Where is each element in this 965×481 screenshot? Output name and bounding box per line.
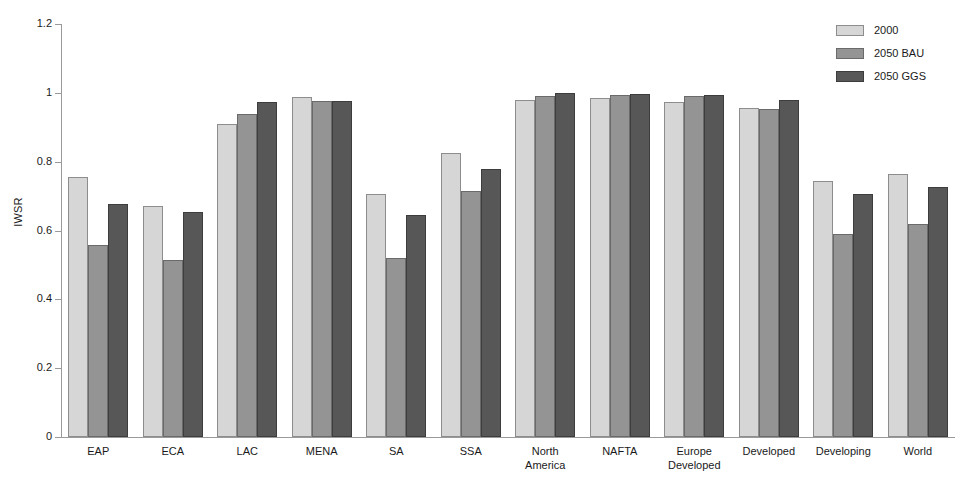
bar: [163, 260, 183, 437]
bar-chart: IWSR 00.20.40.60.811.2 EAPECALACMENASASS…: [0, 0, 965, 481]
bar: [481, 169, 501, 437]
legend-item[interactable]: 2050 BAU: [836, 43, 960, 63]
bar: [630, 94, 650, 437]
bar: [312, 101, 332, 437]
bar: [759, 109, 779, 437]
bar-group: [515, 24, 575, 437]
y-axis-tick-label: 1.2: [6, 18, 52, 29]
legend-label: 2050 BAU: [874, 47, 924, 59]
y-axis-tick-label-wrap: 0.4: [0, 299, 52, 300]
y-axis-title: IWSR: [12, 172, 24, 252]
x-axis-label: SA: [359, 444, 434, 458]
y-axis-tick-label: 1: [6, 87, 52, 98]
legend-swatch-icon: [836, 48, 864, 59]
bar: [684, 96, 704, 437]
bar: [535, 96, 555, 437]
bar: [908, 224, 928, 437]
x-axis-label: NAFTA: [583, 444, 658, 458]
y-axis-tick-label-wrap: 1.2: [0, 24, 52, 25]
bar: [515, 100, 535, 437]
x-axis-label: Developing: [806, 444, 881, 458]
bar-group: [441, 24, 501, 437]
bar: [332, 101, 352, 437]
x-axis-label: Developed: [732, 444, 807, 458]
x-axis-label: ECA: [136, 444, 211, 458]
bar: [888, 174, 908, 437]
x-axis-label: SSA: [434, 444, 509, 458]
bar: [833, 234, 853, 437]
bar: [88, 245, 108, 437]
bar: [108, 204, 128, 437]
bar: [590, 98, 610, 437]
y-axis-tick-label: 0.2: [6, 362, 52, 373]
bar: [386, 258, 406, 437]
bar: [292, 97, 312, 437]
bar: [610, 95, 630, 437]
bar-group: [68, 24, 128, 437]
legend: 20002050 BAU2050 GGS: [836, 20, 960, 89]
bar: [461, 191, 481, 437]
bar: [257, 102, 277, 437]
y-axis-tick-label-wrap: 0.2: [0, 368, 52, 369]
bar: [406, 215, 426, 437]
bar-group: [217, 24, 277, 437]
bar: [664, 102, 684, 437]
legend-swatch-icon: [836, 25, 864, 36]
bar: [555, 93, 575, 437]
bar: [183, 212, 203, 437]
y-axis-tick-label: 0.4: [6, 293, 52, 304]
bar-group: [739, 24, 799, 437]
legend-label: 2050 GGS: [874, 70, 926, 82]
bar: [704, 95, 724, 437]
bar: [853, 194, 873, 437]
x-axis-label: LAC: [210, 444, 285, 458]
y-axis-tick-label-wrap: 0.8: [0, 162, 52, 163]
bar: [68, 177, 88, 437]
bar-group: [366, 24, 426, 437]
legend-item[interactable]: 2000: [836, 20, 960, 40]
bar: [217, 124, 237, 437]
plot-area: [61, 24, 955, 437]
x-axis-label: Europe Developed: [657, 444, 732, 472]
y-axis-tick-label-wrap: 0.6: [0, 231, 52, 232]
legend-item[interactable]: 2050 GGS: [836, 66, 960, 86]
bar: [366, 194, 386, 437]
y-axis-tick-label: 0: [6, 431, 52, 442]
bar: [237, 114, 257, 437]
bar: [143, 206, 163, 437]
bar: [813, 181, 833, 437]
bar: [779, 100, 799, 437]
y-axis-tick-label: 0.6: [6, 225, 52, 236]
bar: [928, 187, 948, 437]
bar: [441, 153, 461, 437]
x-axis-label: MENA: [285, 444, 360, 458]
x-axis-line: [61, 437, 955, 438]
y-axis-tick-label-wrap: 0: [0, 437, 52, 438]
bar-group: [292, 24, 352, 437]
legend-swatch-icon: [836, 71, 864, 82]
bar-group: [590, 24, 650, 437]
bar: [739, 108, 759, 437]
bar-group: [143, 24, 203, 437]
x-axis-label: EAP: [61, 444, 136, 458]
y-axis-tick-label-wrap: 1: [0, 93, 52, 94]
legend-label: 2000: [874, 24, 898, 36]
bar-group: [664, 24, 724, 437]
y-axis-tick-label: 0.8: [6, 156, 52, 167]
x-axis-label: World: [881, 444, 956, 458]
x-axis-label: North America: [508, 444, 583, 472]
